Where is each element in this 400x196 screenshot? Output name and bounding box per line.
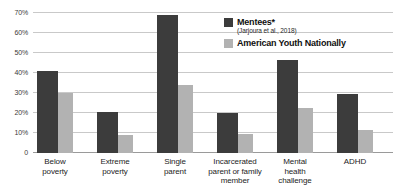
bar: [337, 94, 358, 153]
bar: [358, 130, 373, 153]
y-tick-label: 10%: [0, 129, 28, 136]
bar: [37, 71, 58, 153]
bar-group: [157, 14, 193, 153]
legend-entry-mentees: Mentees* (Jarjoura et al., 2018): [224, 17, 392, 35]
legend-label-mentees: Mentees*: [237, 17, 392, 27]
legend-entry-american-youth: American Youth Nationally: [224, 38, 392, 48]
x-axis-label: Singleparent: [142, 157, 208, 176]
bar: [277, 60, 298, 153]
bar: [217, 113, 238, 153]
legend-swatch-american-youth: [224, 39, 233, 48]
x-axis-label: Incarceratedparent or familymember: [202, 157, 268, 186]
legend-label-american-youth: American Youth Nationally: [237, 38, 392, 48]
bar: [178, 85, 193, 153]
gridline: [33, 12, 393, 13]
x-axis-label: Mentalhealthchallenge: [262, 157, 328, 186]
bar: [238, 134, 253, 153]
y-tick-label: 30%: [0, 89, 28, 96]
x-axis-label: ADHD: [322, 157, 388, 167]
y-tick-label: 0: [0, 149, 28, 156]
bar: [118, 135, 133, 153]
bar: [157, 15, 178, 153]
y-tick-label: 40%: [0, 69, 28, 76]
y-tick-label: 70%: [0, 9, 28, 16]
legend-sublabel-citation: (Jarjoura et al., 2018): [237, 27, 392, 35]
y-tick-label: 60%: [0, 29, 28, 36]
bar-group: [37, 14, 73, 153]
x-axis-label: Belowpoverty: [22, 157, 88, 176]
legend-swatch-mentees: [224, 18, 233, 27]
y-tick-label: 50%: [0, 49, 28, 56]
x-axis-label: Extremepoverty: [82, 157, 148, 176]
bar: [97, 112, 118, 153]
bar-group: [97, 14, 133, 153]
bar-chart: 010%20%30%40%50%60%70% BelowpovertyExtre…: [0, 0, 400, 196]
y-tick-label: 20%: [0, 109, 28, 116]
chart-legend: Mentees* (Jarjoura et al., 2018) America…: [224, 17, 392, 48]
bar: [58, 93, 73, 153]
bar: [298, 108, 313, 153]
